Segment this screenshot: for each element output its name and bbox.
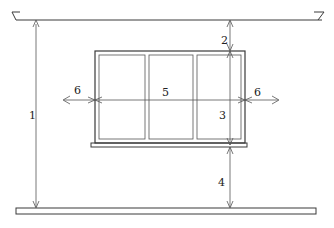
- dimension-2-label: 2: [221, 34, 228, 47]
- window-sill: [91, 143, 247, 147]
- dimension-2: 2: [221, 20, 233, 51]
- window-placement-diagram: 1 2 3 4 5 6 6: [0, 0, 334, 228]
- window-pane-center: [149, 55, 193, 139]
- dimension-3-label: 3: [219, 109, 226, 122]
- window-pane-left: [99, 55, 145, 139]
- ceiling: [12, 12, 324, 20]
- dimension-1-label: 1: [29, 109, 36, 122]
- window-outer-frame: [95, 51, 245, 143]
- dimension-6-left-label: 6: [74, 84, 81, 97]
- dimension-1: 1: [29, 20, 39, 208]
- dimension-6-left: 6: [63, 84, 95, 104]
- ceiling-left-end: [12, 12, 20, 20]
- window-pane-right: [197, 55, 241, 139]
- dimension-5: 5: [95, 86, 245, 103]
- dimension-6-right-label: 6: [254, 86, 261, 99]
- dimension-4-label: 4: [218, 176, 225, 189]
- window: [91, 51, 247, 147]
- dimension-4: 4: [218, 147, 233, 208]
- dimension-3: 3: [219, 51, 233, 145]
- ceiling-right-end: [314, 12, 324, 20]
- dimension-6-right: 6: [245, 86, 279, 104]
- dimension-5-label: 5: [162, 86, 169, 99]
- floor-slab: [16, 208, 316, 214]
